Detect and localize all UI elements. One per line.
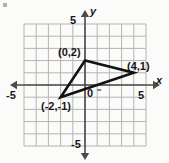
origin-label: 0 [87,88,93,99]
vertex-label-top: (0,2) [58,47,81,58]
vertex-label-right: (4,1) [127,61,150,72]
y-axis-label: y [90,6,96,17]
y-axis-tick-top: 5 [70,15,76,26]
vertex-label-bottom-left: (-2,-1) [41,101,71,112]
coordinate-plane-figure: 5 -5 -5 5 0 x y (0,2) (4,1) (-2,-1) [0,0,169,163]
x-axis-label: x [156,75,162,86]
coordinate-grid-svg [0,0,169,163]
y-axis-tick-bottom: -5 [71,139,81,150]
x-axis-tick-left: -5 [6,90,16,101]
x-axis-tick-right: 5 [138,90,144,101]
axes [10,10,160,160]
